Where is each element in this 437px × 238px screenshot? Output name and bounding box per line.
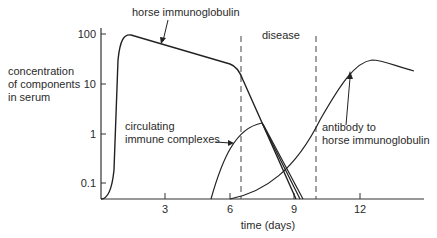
disease-label: disease bbox=[262, 29, 300, 41]
series-horse-immunoglobulin bbox=[101, 35, 296, 199]
x-axis-label: time (days) bbox=[241, 219, 295, 231]
y-tick-label-0.1: 0.1 bbox=[81, 177, 96, 189]
y-tick-label-1: 1 bbox=[90, 128, 96, 140]
label-antibody-line2: horse immunoglobulin bbox=[322, 134, 430, 146]
y-ticks bbox=[101, 34, 106, 183]
x-ticks bbox=[165, 193, 360, 199]
x-tick-label-3: 3 bbox=[162, 203, 168, 215]
label-immune-complexes-line2: immune complexes bbox=[125, 133, 220, 145]
y-axis-label-line3: in serum bbox=[8, 91, 50, 103]
label-immune-complexes-line1: circulating bbox=[125, 120, 175, 132]
y-axis-label-line1: concentration bbox=[8, 65, 74, 77]
y-tick-label-100: 100 bbox=[78, 28, 96, 40]
serum-concentration-chart: 100 10 1 0.1 3 6 9 12 time (days) concen… bbox=[0, 0, 437, 238]
series-immune-complexes-shadow bbox=[263, 124, 303, 199]
x-tick-label-6: 6 bbox=[227, 203, 233, 215]
y-tick-label-10: 10 bbox=[84, 78, 96, 90]
y-axis-label-line2: of components bbox=[8, 78, 81, 90]
series-immune-complexes bbox=[211, 123, 300, 199]
x-tick-label-12: 12 bbox=[354, 203, 366, 215]
label-horse-immunoglobulin: horse immunoglobulin bbox=[132, 6, 240, 18]
label-antibody-line1: antibody to bbox=[322, 121, 376, 133]
x-tick-label-9: 9 bbox=[291, 203, 297, 215]
arrowhead-horse bbox=[160, 37, 166, 44]
arrow-antibody bbox=[346, 78, 350, 125]
